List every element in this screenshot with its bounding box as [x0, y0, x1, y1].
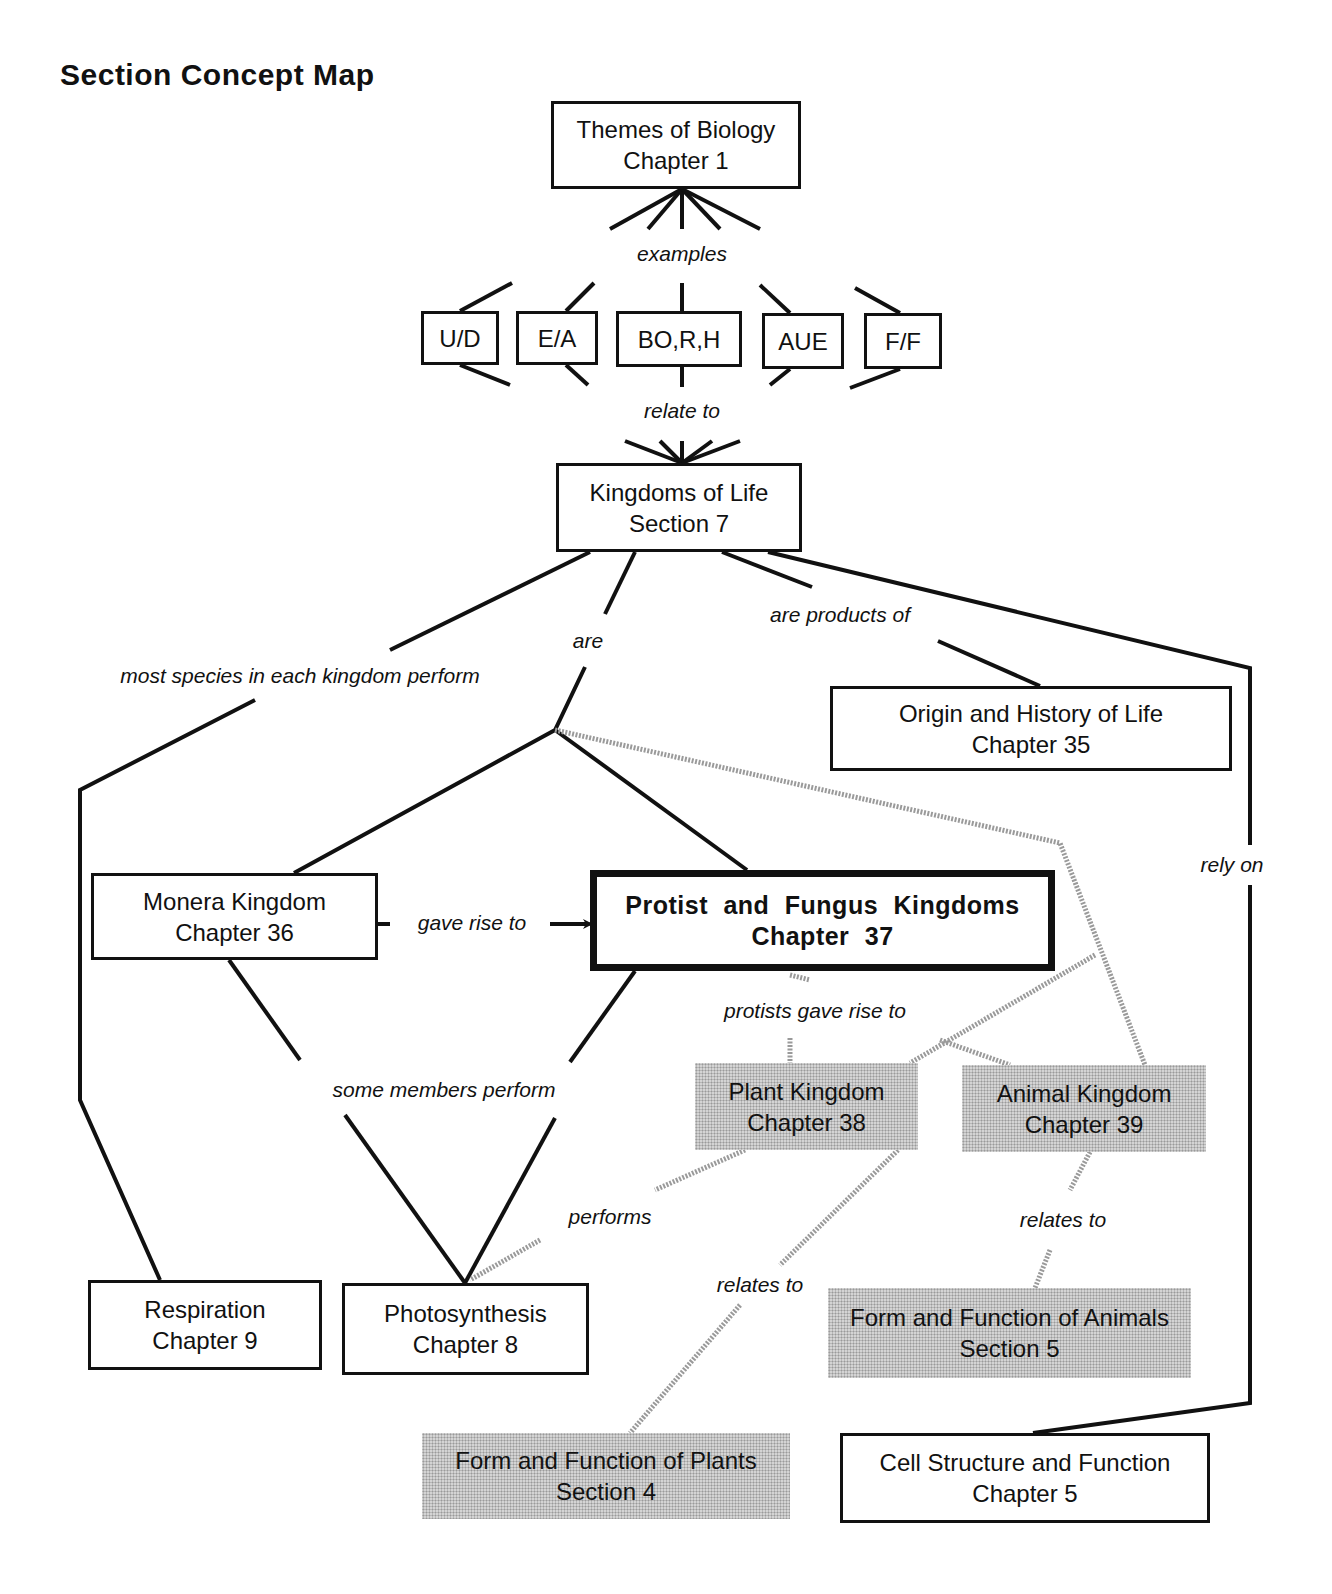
connector-line	[760, 285, 790, 313]
node-reference: Section 4	[556, 1476, 656, 1507]
connector-line	[566, 283, 594, 311]
link-label: rely on	[1198, 853, 1265, 877]
node-title: Form and Function of Animals	[850, 1302, 1169, 1333]
concept-node-ff_animals: Form and Function of AnimalsSection 5	[828, 1288, 1191, 1378]
connector-line	[345, 1115, 465, 1283]
connector-line	[770, 369, 790, 385]
concept-node-ud: U/D	[421, 311, 499, 365]
link-label: gave rise to	[416, 911, 529, 935]
node-title: E/A	[538, 323, 577, 354]
dotted-connector	[910, 955, 1095, 1063]
concept-node-photosynthesis: PhotosynthesisChapter 8	[342, 1283, 589, 1375]
solid-connectors	[80, 189, 1250, 1433]
concept-node-cell: Cell Structure and FunctionChapter 5	[840, 1433, 1210, 1523]
concept-node-ff: F/F	[864, 313, 942, 369]
connector-line	[610, 189, 682, 229]
node-title: Origin and History of Life	[899, 698, 1163, 729]
node-title: Plant Kingdom	[728, 1076, 884, 1107]
concept-node-aue: AUE	[762, 313, 844, 369]
link-label: examples	[635, 242, 729, 266]
concept-node-monera: Monera KingdomChapter 36	[91, 873, 378, 960]
node-title: Themes of Biology	[577, 114, 776, 145]
connector-line	[850, 369, 900, 388]
node-title: Animal Kingdom	[997, 1078, 1172, 1109]
connector-line	[80, 700, 255, 1280]
concept-node-ff_plants: Form and Function of PlantsSection 4	[422, 1433, 790, 1519]
concept-node-kingdoms: Kingdoms of LifeSection 7	[556, 463, 802, 552]
node-title: Protist and Fungus Kingdoms	[625, 890, 1019, 921]
dotted-connector	[1035, 1250, 1050, 1288]
link-label: relates to	[715, 1273, 805, 1297]
node-reference: Chapter 35	[972, 729, 1091, 760]
link-label: protists gave rise to	[722, 999, 908, 1023]
concept-node-animal: Animal KingdomChapter 39	[962, 1065, 1206, 1152]
link-label: are	[571, 629, 605, 653]
concept-node-ea: E/A	[516, 311, 598, 365]
node-title: Respiration	[144, 1294, 265, 1325]
node-reference: Chapter 38	[747, 1107, 866, 1138]
node-title: Monera Kingdom	[143, 886, 326, 917]
node-reference: Chapter 9	[152, 1325, 257, 1356]
connector-line	[460, 365, 510, 385]
connector-line	[938, 641, 1040, 686]
dotted-connector	[470, 1240, 540, 1280]
node-reference: Chapter 39	[1025, 1109, 1144, 1140]
node-title: Cell Structure and Function	[880, 1447, 1171, 1478]
connector-line	[390, 552, 590, 650]
node-reference: Section 7	[629, 508, 729, 539]
dotted-connector	[940, 1040, 1010, 1065]
concept-node-protist: Protist and Fungus KingdomsChapter 37	[590, 870, 1055, 971]
node-title: U/D	[439, 323, 480, 354]
connector-line	[570, 971, 635, 1062]
node-reference: Chapter 5	[972, 1478, 1077, 1509]
connector-line	[682, 189, 760, 229]
dotted-connector	[630, 1305, 740, 1433]
connector-line	[648, 189, 682, 229]
connector-line	[566, 365, 588, 385]
connector-line	[722, 552, 812, 587]
connector-line	[682, 441, 740, 463]
concept-node-plant: Plant KingdomChapter 38	[695, 1063, 918, 1150]
node-reference: Chapter 1	[623, 145, 728, 176]
connector-line	[229, 960, 300, 1060]
dotted-connector	[655, 1150, 745, 1190]
connector-line	[682, 189, 720, 229]
concept-node-themes: Themes of BiologyChapter 1	[551, 101, 801, 189]
node-title: F/F	[885, 326, 921, 357]
concept-node-respiration: RespirationChapter 9	[88, 1280, 322, 1370]
node-title: Form and Function of Plants	[455, 1445, 756, 1476]
link-label: most species in each kingdom perform	[118, 664, 482, 688]
link-label: performs	[567, 1205, 654, 1229]
node-title: BO,R,H	[638, 324, 721, 355]
connector-line	[294, 667, 585, 873]
node-reference: Section 5	[959, 1333, 1059, 1364]
link-label: relates to	[1018, 1208, 1108, 1232]
link-label: relate to	[642, 399, 722, 423]
node-title: Photosynthesis	[384, 1298, 547, 1329]
dotted-connector	[790, 975, 810, 980]
concept-node-borh: BO,R,H	[616, 311, 742, 367]
node-reference: Chapter 36	[175, 917, 294, 948]
connector-line	[460, 283, 512, 311]
connector-line	[855, 288, 900, 313]
node-reference: Chapter 8	[413, 1329, 518, 1360]
node-title: AUE	[778, 326, 827, 357]
dotted-connector	[780, 1150, 898, 1265]
link-label: some members perform	[331, 1078, 558, 1102]
node-reference: Chapter 37	[751, 921, 893, 952]
connector-line	[605, 552, 635, 614]
link-label: are products of	[768, 603, 912, 627]
dotted-connector	[1070, 1152, 1090, 1190]
node-title: Kingdoms of Life	[590, 477, 769, 508]
concept-node-origin: Origin and History of LifeChapter 35	[830, 686, 1232, 771]
